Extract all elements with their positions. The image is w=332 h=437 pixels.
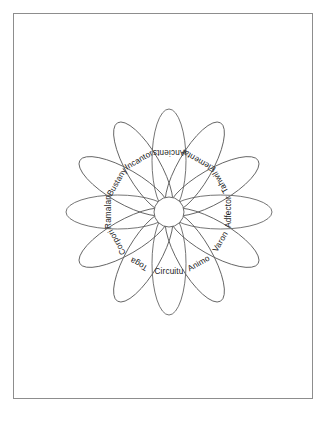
petal-label: Bustany (105, 166, 128, 198)
petal-label: Toga (129, 255, 150, 272)
petal-label: Adfector (224, 196, 233, 228)
petal-label: Tahwil (211, 170, 231, 195)
center-hub-circle (154, 197, 184, 227)
petal-label: Ramalan (104, 195, 113, 229)
petal-label: Corpori (106, 228, 128, 257)
radial-petal-diagram: AncientsElementalTahwilAdfectorVaronAnim… (0, 0, 332, 437)
petal-label: Varon (211, 230, 230, 254)
petal-label: Incantor (123, 148, 154, 171)
petal-label: Circuitu (155, 267, 184, 276)
petal-label: Animo (186, 253, 212, 273)
diagram-canvas: AncientsElementalTahwilAdfectorVaronAnim… (0, 0, 332, 437)
